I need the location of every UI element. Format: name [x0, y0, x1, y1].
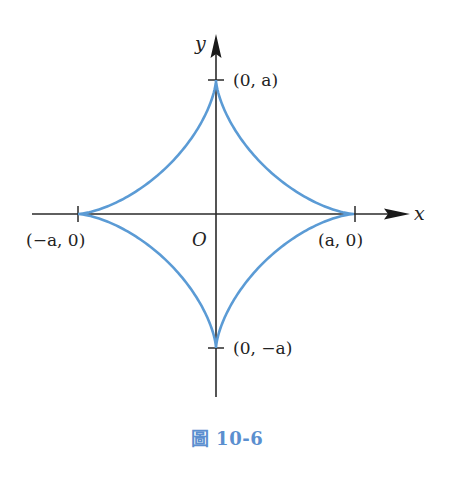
point-label-left: (−a, 0)	[26, 230, 85, 250]
x-axis-label: x	[414, 202, 425, 224]
astroid-diagram: y x O (0, a) (0, −a) (−a, 0) (a, 0)	[0, 0, 454, 478]
y-axis-label: y	[194, 32, 206, 54]
point-label-bottom: (0, −a)	[233, 338, 292, 358]
figure-caption: 圖 10-6	[0, 424, 454, 450]
point-label-right: (a, 0)	[318, 230, 363, 250]
origin-label: O	[192, 229, 207, 250]
point-label-top: (0, a)	[233, 70, 278, 90]
